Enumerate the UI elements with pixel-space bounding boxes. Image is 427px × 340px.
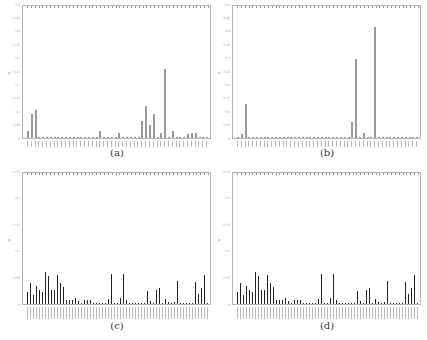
top-tick-mark (54, 173, 55, 175)
top-tick-mark (127, 173, 128, 175)
caption-a: (a) (97, 147, 137, 158)
top-tick-mark (96, 173, 97, 175)
x-tick-label (306, 307, 307, 319)
x-tick-label (38, 141, 39, 147)
data-bar (405, 282, 406, 304)
data-bar (397, 137, 399, 138)
data-bar (99, 303, 100, 304)
data-bar (105, 303, 106, 304)
top-tick-mark (39, 6, 40, 8)
x-tick-label (50, 141, 51, 147)
data-bar (328, 137, 330, 138)
top-tick-mark (169, 6, 170, 8)
top-tick-mark (279, 6, 280, 8)
data-bar (300, 300, 301, 304)
top-tick-mark (108, 173, 109, 175)
top-tick-mark (276, 6, 277, 8)
top-tick-mark (318, 6, 319, 8)
top-tick-mark (119, 173, 120, 175)
data-bar (306, 137, 308, 138)
top-tick-mark (204, 6, 205, 8)
top-tick-mark (310, 173, 311, 175)
top-tick-mark (158, 173, 159, 175)
x-tick-label (378, 307, 379, 319)
data-bar (207, 303, 208, 304)
data-bar (192, 303, 193, 304)
data-bar (168, 302, 169, 304)
y-tick-label: 0.5 (216, 4, 230, 7)
top-tick-mark (108, 6, 109, 8)
data-bar (135, 303, 136, 304)
data-bar (38, 137, 40, 138)
x-tick-label (363, 307, 364, 319)
data-bar (332, 137, 334, 138)
top-tick-mark (260, 173, 261, 175)
data-bar (390, 303, 391, 304)
x-tick-label (75, 307, 76, 319)
x-tick-label (191, 141, 192, 147)
data-bar (51, 290, 52, 304)
top-tick-mark (204, 173, 205, 175)
x-tick-label (315, 307, 316, 319)
top-tick-mark (333, 6, 334, 8)
top-tick-mark (135, 6, 136, 8)
x-tick-label (240, 307, 241, 319)
y-tick-label: 0 (216, 138, 230, 141)
x-tick-label (137, 141, 138, 147)
x-tick-label (73, 141, 74, 147)
data-bar (171, 303, 172, 304)
data-bar (405, 137, 407, 138)
top-tick-mark (135, 173, 136, 175)
top-tick-mark (299, 6, 300, 8)
top-tick-mark (268, 6, 269, 8)
data-bar (344, 137, 346, 138)
x-tick-label (93, 307, 94, 319)
top-tick-mark (81, 173, 82, 175)
x-tick-label (69, 307, 70, 319)
top-tick-mark (27, 6, 28, 8)
y-tick-label: 0.25 (6, 171, 20, 174)
data-bar (159, 288, 160, 304)
top-tick-mark (100, 173, 101, 175)
data-bar (302, 137, 304, 138)
top-tick-mark (69, 6, 70, 8)
x-tick-label (88, 141, 89, 147)
y-tick-label: 0.45 (6, 17, 20, 20)
x-tick-label (264, 307, 265, 319)
data-bar (157, 137, 159, 138)
top-tick-mark (123, 173, 124, 175)
x-tick-label (111, 307, 112, 319)
chart-panel-a (22, 5, 211, 139)
data-bar (336, 137, 338, 138)
data-bar (290, 137, 292, 138)
top-tick-mark (349, 173, 350, 175)
top-tick-mark (291, 6, 292, 8)
top-tick-mark (46, 6, 47, 8)
top-tick-mark (131, 6, 132, 8)
data-bar (408, 294, 409, 304)
data-bar (291, 303, 292, 304)
data-bar (90, 300, 91, 304)
top-tick-mark (295, 6, 296, 8)
top-tick-mark (299, 173, 300, 175)
data-bar (409, 137, 411, 138)
x-tick-label (294, 307, 295, 319)
x-tick-label (252, 307, 253, 319)
x-tick-label (351, 307, 352, 319)
data-bar (108, 299, 109, 304)
top-tick-mark (143, 6, 144, 8)
data-bar (393, 303, 394, 304)
data-bar (351, 122, 353, 138)
data-bar (33, 295, 34, 304)
x-tick-label (390, 307, 391, 319)
top-tick-mark (119, 6, 120, 8)
data-bar (359, 137, 361, 138)
x-tick-label (27, 141, 28, 147)
x-tick-label (65, 141, 66, 147)
x-tick-label (260, 141, 261, 147)
data-bar (87, 300, 88, 304)
top-tick-mark (364, 173, 365, 175)
top-tick-mark (356, 6, 357, 8)
x-tick-label (141, 307, 142, 319)
y-tick-label: 0.15 (216, 97, 230, 100)
